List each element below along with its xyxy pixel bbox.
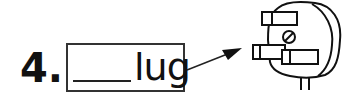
plug-icon bbox=[253, 2, 340, 90]
arrow-and-plug bbox=[0, 0, 352, 98]
arrow-icon bbox=[187, 48, 242, 70]
